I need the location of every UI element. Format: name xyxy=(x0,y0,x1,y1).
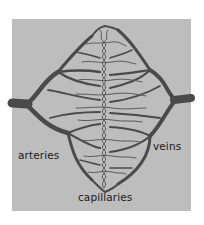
veins-label: veins xyxy=(153,141,181,152)
capillaries-label: capillaries xyxy=(78,192,132,203)
arteries-label: arteries xyxy=(18,150,59,161)
